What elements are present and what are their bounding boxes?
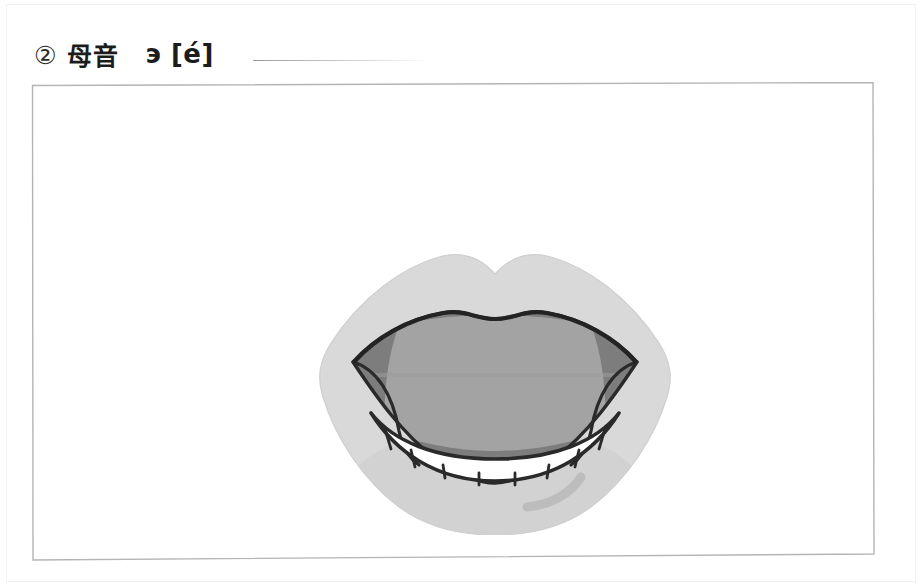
heading-divider-rule xyxy=(253,60,873,62)
mouth-svg xyxy=(315,245,675,535)
section-title-cjk: 母音 xyxy=(67,36,119,72)
tongue-tone-band xyxy=(375,373,615,377)
tongue-group xyxy=(375,315,615,451)
section-number-badge: ② xyxy=(34,43,56,68)
tongue-body xyxy=(385,315,606,451)
scanned-page: ② 母音 э [é] xyxy=(0,0,920,586)
section-title-cyrillic: э [é] xyxy=(145,39,213,69)
mouth-illustration xyxy=(315,245,675,535)
illustration-frame xyxy=(30,82,875,561)
section-heading: ② 母音 э [é] xyxy=(34,34,214,74)
